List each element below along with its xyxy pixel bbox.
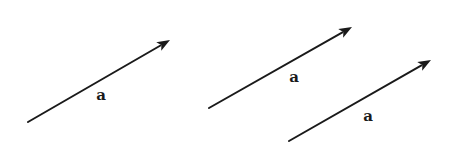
vector-arrow-1 [28,40,170,122]
arrowhead-icon [156,40,170,51]
vector-arrow-2 [209,27,352,108]
vector-label-1: a [96,88,106,103]
vector-label-2: a [289,70,299,85]
vector-shaft [28,46,160,122]
vector-arrow-3 [289,60,431,141]
vector-label-3: a [363,109,373,124]
arrowhead-icon [338,27,352,38]
vector-shaft [289,65,421,141]
arrowhead-icon [417,60,431,71]
vector-diagram [0,0,461,150]
vector-shaft [209,32,342,108]
